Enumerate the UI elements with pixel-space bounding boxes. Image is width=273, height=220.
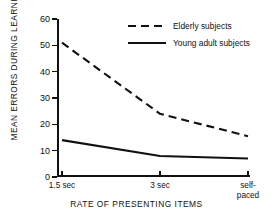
x-axis-title: RATE OF PRESENTING ITEMS: [0, 199, 273, 209]
series-line-elderly: [62, 43, 248, 136]
legend-label-elderly: Elderly subjects: [173, 21, 232, 31]
series-line-young-adult: [62, 140, 248, 158]
y-tick-label-30: 30: [40, 93, 50, 103]
y-tick-label-40: 40: [40, 67, 50, 77]
x-tick-label-2: self-paced: [218, 181, 273, 200]
x-tick-label-1: 3 sec: [130, 181, 190, 191]
y-tick-label-60: 60: [40, 14, 50, 24]
x-tick-label-0: 1.5 sec: [32, 181, 92, 191]
legend-label-young-adult: Young adult subjects: [173, 38, 250, 48]
legend-item-elderly: Elderly subjects: [128, 19, 250, 32]
y-axis-title: MEAN ERRORS DURING LEARNING: [9, 0, 19, 143]
y-tick-label-10: 10: [40, 146, 50, 156]
y-tick-label-50: 50: [40, 40, 50, 50]
chart-figure: MEAN ERRORS DURING LEARNING 010203040506…: [0, 0, 273, 220]
chart-legend: Elderly subjects Young adult subjects: [128, 19, 250, 53]
legend-item-young-adult: Young adult subjects: [128, 36, 250, 49]
legend-swatch-dashed: [128, 21, 166, 31]
y-tick-label-20: 20: [40, 119, 50, 129]
legend-swatch-solid: [128, 38, 166, 48]
